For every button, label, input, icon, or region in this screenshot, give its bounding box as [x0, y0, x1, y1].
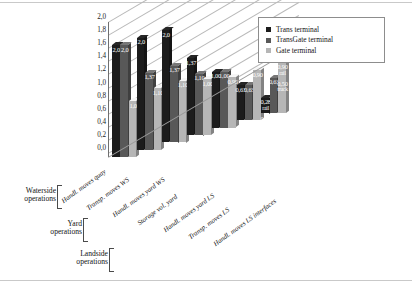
bar-value-label: 1,37: [186, 60, 197, 67]
bar: 0,63: [245, 85, 253, 120]
legend-label: Gate terminal: [276, 47, 316, 55]
y-tick-label: 2,0: [84, 14, 106, 21]
group-label-line2: operations: [60, 257, 108, 266]
bar-face: [145, 73, 153, 150]
y-tick-label: 0,4: [84, 119, 106, 126]
bar: 2,0: [120, 45, 128, 157]
bar: 1,10: [154, 88, 162, 150]
bar-face: [120, 45, 128, 157]
bar: 2,0: [112, 45, 120, 157]
bar-face: [112, 45, 120, 157]
legend-swatch-icon: [266, 27, 271, 32]
bar-value-sublabel-secondary: truck: [277, 87, 288, 93]
y-tick-label: 1,8: [84, 27, 106, 34]
y-tick-label: 1,4: [84, 53, 106, 60]
bar: 0,28rail0,55truck: [261, 98, 269, 114]
bar-value-sublabel: rail: [277, 71, 288, 77]
bar-value-label: 2,0: [136, 39, 147, 46]
chart-figure: 2,01,81,61,41,21,00,80,60,40,20,0 2,02,0…: [0, 0, 412, 283]
y-tick-label: 0,8: [84, 93, 106, 100]
bar: 0,90rail0,50truck: [278, 63, 286, 113]
bar-face: [170, 66, 178, 143]
bar-value-sublabel-secondary: truck: [260, 122, 271, 128]
bar: 1,37: [145, 73, 153, 150]
legend-swatch-icon: [266, 38, 271, 43]
bar: 0,90: [253, 70, 261, 120]
group-bracket: [83, 218, 88, 242]
group-label-line2: operations: [8, 194, 56, 203]
bar: 1,00: [212, 72, 220, 128]
group-bracket: [57, 185, 62, 209]
y-tick-label: 0,2: [84, 132, 106, 139]
y-tick-label: 1,2: [84, 66, 106, 73]
y-tick-label: 1,6: [84, 40, 106, 47]
legend-swatch-icon: [266, 48, 271, 53]
bar: 1,0: [129, 101, 137, 157]
bar-value-label: 2,0: [119, 47, 130, 54]
group-bracket: [109, 248, 114, 272]
legend-label: Trans terminal: [276, 26, 319, 34]
legend: Trans terminalTransGate terminalGate ter…: [258, 17, 385, 63]
bar-value-label: 2,0: [161, 32, 172, 39]
legend-item[interactable]: Trans terminal: [266, 26, 378, 34]
bar-value-label: 1,37: [169, 67, 180, 74]
bar-value-label: 1,37: [144, 74, 155, 81]
bar: 1,37: [187, 58, 195, 135]
y-tick-label: 0,6: [84, 106, 106, 113]
legend-item[interactable]: TransGate terminal: [266, 36, 378, 44]
y-tick-label: 1,0: [84, 80, 106, 87]
bar: 2,0: [137, 38, 145, 150]
bar-face: [203, 79, 211, 135]
bar: 1,00: [203, 79, 211, 135]
bar: 1,37: [170, 66, 178, 143]
group-label-line2: operations: [34, 227, 82, 236]
legend-item[interactable]: Gate terminal: [266, 47, 378, 55]
y-axis-line: [108, 22, 109, 157]
category-label: Handl. moves LS interfaces: [212, 197, 278, 247]
legend-label: TransGate terminal: [276, 36, 333, 44]
